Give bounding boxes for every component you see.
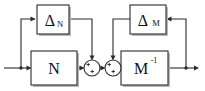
delta-n-subscript: N bbox=[57, 19, 63, 29]
wire-output-feedback-to-delta-m bbox=[168, 19, 186, 68]
m-inverse-exponent: -1 bbox=[151, 56, 158, 65]
m-inverse-block-label: M bbox=[134, 60, 148, 77]
delta-n-symbol: Δ bbox=[45, 12, 55, 29]
delta-m-subscript: M bbox=[152, 18, 160, 28]
n-block-label: N bbox=[48, 60, 60, 77]
arrow-output bbox=[194, 66, 199, 71]
diagram-canvas: Δ N Δ M N M -1 bbox=[0, 0, 205, 91]
summing-junction-2-group[interactable] bbox=[105, 60, 121, 76]
n-block-group[interactable]: N bbox=[31, 51, 79, 87]
summing-junction-1-circle bbox=[84, 60, 100, 76]
arrow-into-delta-n bbox=[31, 17, 36, 22]
delta-n-block-group[interactable]: Δ N bbox=[37, 5, 71, 36]
summing-junction-2-circle bbox=[105, 60, 121, 76]
output-branch-dot bbox=[184, 66, 187, 69]
m-inverse-block-group[interactable]: M -1 bbox=[121, 51, 170, 87]
delta-m-block-group[interactable]: Δ M bbox=[130, 5, 168, 36]
input-branch-dot bbox=[19, 66, 22, 69]
delta-m-symbol: Δ bbox=[138, 12, 148, 29]
block-diagram: Δ N Δ M N M -1 bbox=[0, 0, 205, 91]
summing-junction-1-group[interactable] bbox=[84, 60, 100, 76]
